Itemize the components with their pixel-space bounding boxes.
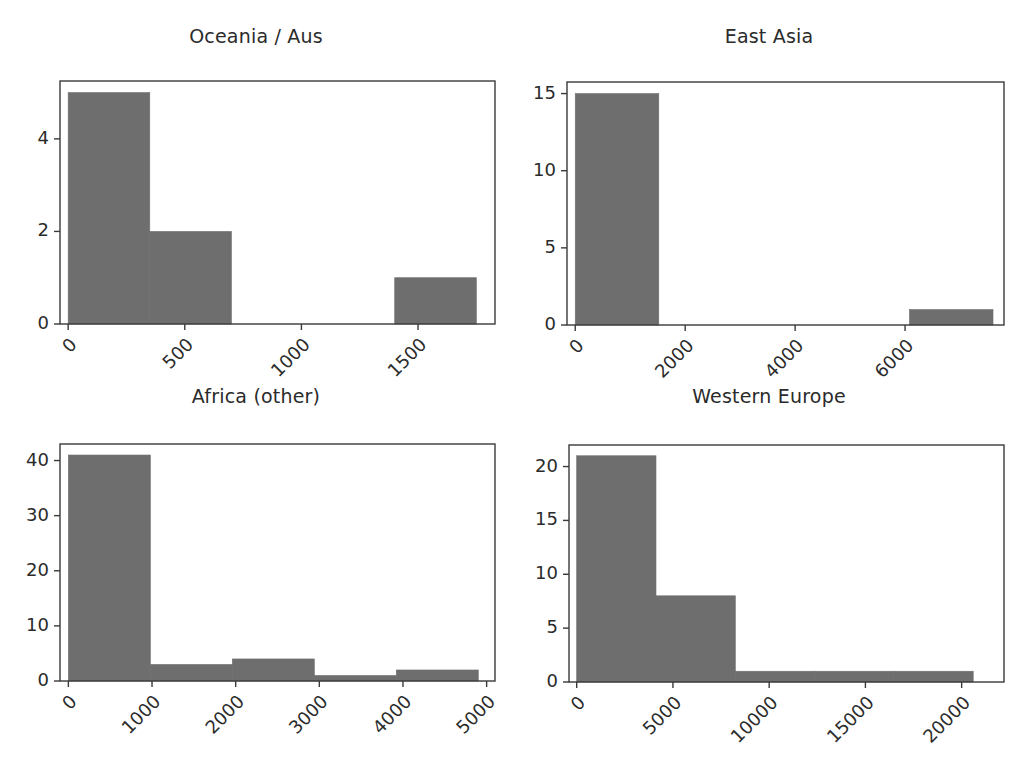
- x-tick-label: 0: [58, 691, 81, 714]
- y-tick-label: 10: [26, 614, 49, 635]
- x-tick-label: 15000: [823, 692, 878, 747]
- y-tick-label: 4: [38, 127, 49, 148]
- histogram-bar: [68, 455, 150, 681]
- histogram-bar: [396, 670, 478, 681]
- y-tick-label: 40: [26, 449, 49, 470]
- histogram-bar: [150, 664, 232, 681]
- histogram-bar: [577, 456, 656, 682]
- x-tick-label: 6000: [870, 335, 917, 382]
- y-tick-label: 10: [533, 159, 556, 180]
- histogram-bar: [68, 93, 150, 324]
- histogram-bar: [735, 671, 814, 682]
- y-tick-label: 5: [545, 236, 556, 257]
- y-tick-label: 0: [547, 670, 558, 691]
- plot-area: 050010001500024: [0, 47, 512, 377]
- x-tick-label: 4000: [368, 691, 415, 738]
- y-tick-label: 0: [38, 669, 49, 690]
- x-tick-label: 2000: [201, 691, 248, 738]
- x-tick-label: 4000: [760, 335, 807, 382]
- subplot-title: East Asia: [513, 25, 1025, 47]
- x-tick-label: 2000: [650, 335, 697, 382]
- histogram-bar: [909, 310, 993, 325]
- x-tick-label: 1000: [117, 691, 164, 738]
- x-tick-label: 0: [566, 692, 589, 715]
- y-tick-label: 0: [38, 312, 49, 333]
- subplot-africa-other: Africa (other) 0100020003000400050000102…: [0, 385, 512, 765]
- x-tick-label: 0: [58, 334, 81, 357]
- y-tick-label: 30: [26, 504, 49, 525]
- x-tick-label: 5000: [638, 692, 685, 739]
- y-tick-label: 10: [535, 562, 558, 583]
- histogram-bar: [314, 675, 396, 681]
- subplot-title: Africa (other): [0, 385, 512, 407]
- x-tick-label: 10000: [726, 692, 781, 747]
- subplot-title: Oceania / Aus: [0, 25, 512, 47]
- y-tick-label: 2: [38, 219, 49, 240]
- subplot-western-europe: Western Europe 0500010000150002000005101…: [513, 385, 1025, 765]
- histogram-bar: [150, 231, 232, 324]
- y-tick-label: 20: [26, 559, 49, 580]
- x-tick-label: 1500: [383, 334, 430, 381]
- y-tick-label: 5: [547, 616, 558, 637]
- x-tick-label: 1000: [267, 334, 314, 381]
- x-tick-label: 20000: [919, 692, 974, 747]
- plot-area: 010002000300040005000010203040: [0, 407, 512, 757]
- histogram-bar: [232, 659, 314, 681]
- histogram-bar: [656, 596, 735, 682]
- plot-area: 0200040006000051015: [513, 47, 1025, 377]
- y-tick-label: 15: [535, 508, 558, 529]
- subplot-title: Western Europe: [513, 385, 1025, 407]
- subplot-oceania-aus: Oceania / Aus 050010001500024: [0, 25, 512, 380]
- y-tick-label: 20: [535, 455, 558, 476]
- y-tick-label: 15: [533, 82, 556, 103]
- y-tick-label: 0: [545, 313, 556, 334]
- x-tick-label: 0: [565, 335, 588, 358]
- histogram-figure: g Oceania / Aus 050010001500024 East Asi…: [0, 0, 1025, 765]
- histogram-bar: [395, 278, 477, 324]
- histogram-bar: [815, 671, 894, 682]
- plot-area: 0500010000150002000005101520: [513, 407, 1025, 757]
- histogram-bar: [575, 94, 659, 325]
- subplot-east-asia: East Asia 0200040006000051015: [513, 25, 1025, 380]
- histogram-bar: [894, 671, 973, 682]
- x-tick-label: 5000: [452, 691, 499, 738]
- x-tick-label: 500: [158, 334, 197, 373]
- x-tick-label: 3000: [285, 691, 332, 738]
